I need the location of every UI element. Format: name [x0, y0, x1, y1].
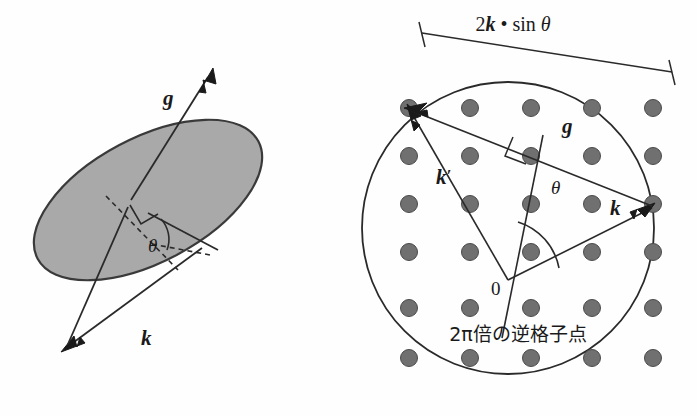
lattice-dot — [462, 350, 479, 367]
g-vector-label-right: g — [561, 114, 573, 138]
dimension-tick-left — [419, 22, 425, 47]
lattice-dot — [645, 244, 662, 261]
lattice-dot — [462, 148, 479, 165]
origin-label: 0 — [491, 278, 501, 299]
lattice-dot — [401, 350, 418, 367]
lattice-dot — [401, 148, 418, 165]
k-vector-label: k — [141, 326, 152, 350]
theta-label-right: θ — [551, 177, 560, 198]
lattice-dot — [645, 148, 662, 165]
lattice-dot — [645, 350, 662, 367]
k-prime-vector-label: k′ — [436, 165, 451, 189]
lattice-dot — [645, 100, 662, 117]
g-vector-label: g — [162, 86, 174, 110]
japanese-caption: 2π倍の逆格子点 — [449, 323, 587, 345]
lattice-dot — [584, 148, 601, 165]
incident-beam-arrowhead — [61, 336, 85, 352]
lattice-dot — [462, 244, 479, 261]
lattice-dot — [523, 244, 540, 261]
right-panel-group: 2k • sin θ — [362, 13, 675, 374]
lattice-dot — [584, 300, 601, 317]
k-prime-vector-line — [411, 112, 508, 280]
figure-root: g k θ 2k • sin θ — [0, 0, 697, 416]
k-prime-text: k — [436, 165, 447, 189]
lattice-dot — [584, 100, 601, 117]
lattice-dot — [584, 244, 601, 261]
lattice-dot — [584, 350, 601, 367]
g-vector-arrowhead — [199, 68, 216, 93]
lattice-dot — [523, 300, 540, 317]
lattice-dot — [401, 244, 418, 261]
lattice-dot — [645, 300, 662, 317]
lattice-dot — [584, 196, 601, 213]
theta-label-left: θ — [148, 235, 157, 256]
lattice-dot — [462, 100, 479, 117]
right-angle-marker-right — [505, 137, 526, 164]
diagram-canvas: g k θ 2k • sin θ — [0, 0, 697, 416]
lattice-dot — [401, 300, 418, 317]
dimension-line — [422, 33, 672, 72]
lattice-dot — [462, 300, 479, 317]
dimension-label: 2k • sin θ — [475, 13, 550, 35]
dimension-tick-right — [669, 60, 675, 85]
lattice-dot — [523, 350, 540, 367]
k-vector-label-right: k — [610, 196, 621, 220]
lattice-dot — [401, 196, 418, 213]
left-panel-group: g k θ — [9, 68, 288, 352]
lattice-dot — [523, 100, 540, 117]
crystal-plane-ellipse — [9, 87, 288, 314]
